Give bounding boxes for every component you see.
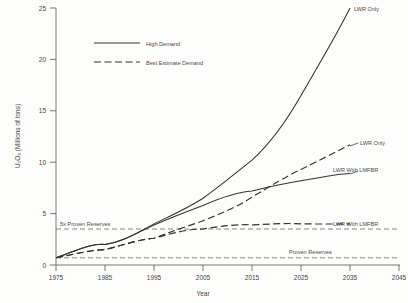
curve-label-lwr-only-best: LWR Only	[360, 140, 385, 146]
y-tick-label: 5	[42, 210, 46, 217]
curve-label-lwr-lmfbr-best: LWR With LMFBR	[333, 221, 378, 227]
y-tick-label: 20	[39, 56, 47, 63]
y-axis-tick-labels: 0 5 10 15 20 25	[39, 5, 47, 269]
x-tick-label: 1995	[147, 274, 162, 281]
x-tick-label: 1985	[98, 274, 113, 281]
uranium-demand-line-chart: 0 5 10 15 20 25 1975 1985 1995 2005 2015…	[0, 0, 408, 303]
leader-line-lwr-only-best	[350, 143, 358, 146]
legend-label-best-estimate-demand: Best Estimate Demand	[146, 60, 203, 66]
x-axis-ticks	[56, 265, 399, 271]
series-lwr-with-lmfbr-high-demand	[56, 174, 350, 258]
x-tick-label: 2025	[294, 274, 309, 281]
x-axis-tick-labels: 1975 1985 1995 2005 2015 2025 2035 2045	[49, 274, 407, 281]
curve-label-lwr-only-high: LWR Only	[354, 6, 379, 12]
x-tick-label: 2045	[392, 274, 407, 281]
reference-label-proven-reserves: Proven Reserves	[289, 249, 332, 255]
curve-label-lwr-lmfbr-high: LWR With LMFBR	[333, 167, 378, 173]
legend-label-high-demand: High Demand	[146, 41, 180, 47]
y-axis-title: U₃O₈ (Millions of tons)	[14, 104, 22, 168]
x-tick-label: 2015	[245, 274, 260, 281]
series-lwr-only-best-estimate	[56, 145, 350, 258]
x-tick-label: 2035	[343, 274, 358, 281]
y-tick-label: 0	[42, 262, 46, 269]
chart-container: 0 5 10 15 20 25 1975 1985 1995 2005 2015…	[0, 0, 408, 303]
x-tick-label: 1975	[49, 274, 64, 281]
y-tick-label: 15	[39, 107, 47, 114]
y-axis-ticks	[50, 8, 56, 265]
chart-legend: High Demand Best Estimate Demand	[94, 41, 203, 66]
y-tick-label: 25	[39, 5, 47, 12]
reference-label-5x-proven-reserves: 5x Proven Reserves	[60, 221, 111, 227]
y-tick-label: 10	[39, 159, 47, 166]
x-axis-title: Year	[196, 290, 210, 297]
x-tick-label: 2005	[196, 274, 211, 281]
